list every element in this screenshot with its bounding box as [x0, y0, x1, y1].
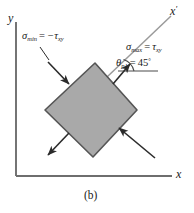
sigma-min-compression-arrow-lower-right [119, 128, 155, 158]
theta-value: 45 [138, 57, 149, 68]
sigma-max-label: σmax = τxy [126, 42, 162, 53]
stress-element-figure: y x x′ σmin = −τxy σmax = τxy θp1 = 45° … [0, 0, 194, 213]
x-prime-axis-label: x′ [170, 5, 177, 17]
x-axis-label: x [176, 168, 181, 180]
y-axis-label: y [8, 12, 13, 24]
sigma-max-value-subscript: xy [156, 46, 162, 53]
prime-mark: ′ [175, 4, 177, 14]
sigma-min-value-subscript: xy [58, 35, 64, 42]
figure-caption: (b) [84, 190, 97, 202]
sigma-min-compression-arrow-upper-left [48, 62, 69, 84]
degree-symbol: ° [148, 57, 151, 64]
theta-subscript: p1 [121, 62, 128, 69]
sigma-min-subscript: min [27, 35, 37, 42]
sigma-min-label: σmin = −τxy [22, 31, 64, 42]
sigma-max-subscript: max [131, 46, 142, 53]
theta-p1-label: θp1 = 45° [116, 58, 151, 69]
sigma-min-leader-line [40, 47, 49, 60]
sigma-max-tension-arrow-lower-left [48, 133, 69, 155]
sigma-min-value: −τ [47, 30, 58, 41]
